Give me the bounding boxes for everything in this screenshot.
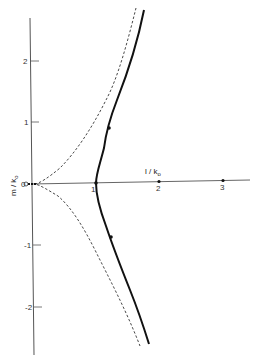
y-tick-label-m1: -1 — [24, 241, 32, 250]
x-tick-label-2: 2 — [156, 184, 161, 193]
y-tick-label-1: 1 — [24, 118, 29, 127]
x-tick-label-3: 3 — [220, 183, 225, 192]
solid-curve-marker-lower — [109, 235, 113, 239]
y-tick-label-2: 2 — [23, 57, 28, 66]
dashed-curve — [35, 8, 140, 346]
chart-canvas: 2 1 0 -1 -2 1 2 3 l / ko m / ko — [0, 0, 254, 362]
y-tick-label-0: 0 — [21, 180, 26, 189]
y-tick-label-m2: -2 — [25, 303, 33, 312]
solid-curve — [96, 10, 149, 344]
x-axis-line — [31, 180, 250, 184]
x-axis-marker-2 — [157, 180, 160, 183]
y-axis-label: m / ko — [9, 175, 19, 196]
solid-curve-marker-axis — [94, 181, 98, 185]
x-axis-label: l / ko — [145, 167, 161, 177]
x-axis-marker-3 — [221, 179, 224, 182]
solid-curve-marker-upper — [107, 126, 111, 130]
x-axis-label-sub: o — [157, 171, 161, 177]
x-axis-label-main: l / k — [145, 167, 158, 176]
y-axis-label-sub: o — [13, 175, 19, 179]
y-axis-label-main: m / k — [9, 178, 18, 196]
